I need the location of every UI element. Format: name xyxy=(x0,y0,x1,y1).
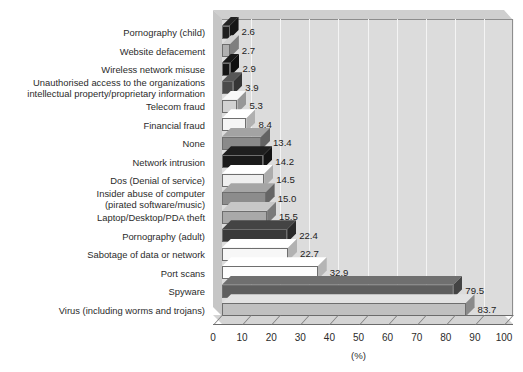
bar-top-face xyxy=(222,239,297,248)
category-label: Spyware xyxy=(0,287,205,298)
tick-label-50: 50 xyxy=(344,332,374,343)
bar-top-face xyxy=(222,202,276,211)
bar-value-label: 2.6 xyxy=(242,27,255,37)
bar-front-face xyxy=(222,26,230,39)
category-label: Insider abuse of computer (pirated softw… xyxy=(0,189,205,210)
bar-value-label: 13.4 xyxy=(273,138,292,148)
category-label: Network intrusion xyxy=(0,158,205,169)
bar-top-face xyxy=(222,183,275,192)
plot-area: 2.62.72.93.95.38.413.414.214.515.015.522… xyxy=(213,10,516,330)
category-label: Website defacement xyxy=(0,47,205,58)
tick-label-80: 80 xyxy=(431,332,461,343)
category-label: Laptop/Desktop/PDA theft xyxy=(0,213,205,224)
tick-label-0: 0 xyxy=(198,332,228,343)
category-axis-labels: Pornography (child)Website defacementWir… xyxy=(0,14,209,314)
bar-top-face xyxy=(222,257,327,266)
bar-front-face xyxy=(222,63,230,76)
category-label: Wireless network misuse xyxy=(0,65,205,76)
bar-top-face xyxy=(222,165,273,174)
bar-value-label: 2.9 xyxy=(242,64,255,74)
tick-label-90: 90 xyxy=(460,332,490,343)
bar-value-label: 14.5 xyxy=(276,175,295,185)
category-label: None xyxy=(0,139,205,150)
tick-label-100: 100 xyxy=(489,332,519,343)
tick-label-30: 30 xyxy=(285,332,315,343)
category-label: Financial fraud xyxy=(0,121,205,132)
bar-front-face xyxy=(222,44,230,57)
x-axis-title: (%) xyxy=(329,350,389,361)
category-label: Telecom fraud xyxy=(0,102,205,113)
category-label: Dos (Denial of service) xyxy=(0,176,205,187)
bar-top-face xyxy=(222,294,475,303)
category-label: Virus (including worms and trojans) xyxy=(0,306,205,317)
category-label: Pornography (child) xyxy=(0,28,205,39)
bar-top-face xyxy=(222,276,462,285)
tick-label-10: 10 xyxy=(227,332,257,343)
tick-label-70: 70 xyxy=(402,332,432,343)
category-label: Port scans xyxy=(0,269,205,280)
bar-value-label: 22.4 xyxy=(299,231,318,241)
tick-label-20: 20 xyxy=(256,332,286,343)
bar-value-label: 2.7 xyxy=(242,46,255,56)
bar-series: 2.62.72.93.95.38.413.414.214.515.015.522… xyxy=(213,10,516,330)
bar-value-label: 3.9 xyxy=(245,83,258,93)
bar-value-label: 83.7 xyxy=(478,305,497,315)
category-label: Pornography (adult) xyxy=(0,232,205,243)
bar-value-label: 15.0 xyxy=(278,194,297,204)
bar-top-face xyxy=(222,220,296,229)
category-label: Sabotage of data or network xyxy=(0,250,205,261)
bar-value-label: 14.2 xyxy=(275,157,294,167)
category-label: Unauthorised access to the organizations… xyxy=(0,78,205,99)
bar-chart: Pornography (child)Website defacementWir… xyxy=(0,0,523,372)
tick-label-60: 60 xyxy=(373,332,403,343)
tick-label-40: 40 xyxy=(314,332,344,343)
